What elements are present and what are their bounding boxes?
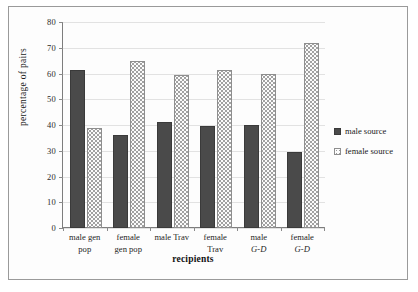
x-tick-mark (237, 227, 238, 231)
bar-male-source (287, 152, 302, 228)
y-tick-label: 60 (47, 69, 56, 79)
bar-male-source (70, 70, 85, 228)
x-tick-label: male genpop (63, 232, 107, 255)
y-tick-mark (59, 151, 63, 152)
bar-group (108, 22, 152, 228)
y-tick-mark (59, 74, 63, 75)
bar-male-source (113, 135, 128, 228)
y-tick-mark (59, 202, 63, 203)
x-tick-mark (107, 227, 108, 231)
bar-female-source (261, 74, 276, 229)
y-tick-mark (59, 48, 63, 49)
bar-male-source (157, 122, 172, 228)
bar-group (64, 22, 108, 228)
bar-female-source (304, 43, 319, 228)
y-tick-label: 0 (52, 223, 56, 233)
y-tick-mark (59, 125, 63, 126)
bar-male-source (200, 126, 215, 228)
x-tick-label: femaleTrav (194, 232, 238, 255)
y-tick-label: 80 (47, 17, 56, 27)
x-tick-labels: male genpopfemalegen popmale TravfemaleT… (63, 232, 324, 255)
bar-female-source (217, 70, 232, 228)
legend-item-male-source: male source (334, 126, 410, 136)
legend-label: female source (345, 146, 393, 156)
bar-group (238, 22, 282, 228)
x-tick-mark (324, 227, 325, 231)
y-tick-label: 70 (47, 43, 56, 53)
y-tick-label: 50 (47, 94, 56, 104)
bar-group (195, 22, 239, 228)
dotted-square-icon (334, 148, 341, 155)
bar-groups (64, 22, 325, 228)
bar-group (282, 22, 326, 228)
y-tick-label: 40 (47, 120, 56, 130)
x-tick-label: male Trav (150, 232, 194, 255)
plot-wrapper: 01020304050607080 male genpopfemalegen p… (62, 22, 324, 230)
bar-female-source (87, 128, 102, 228)
x-axis-title: recipients (62, 254, 324, 264)
y-axis-title: percentage of pairs (18, 48, 28, 126)
bar-female-source (130, 61, 145, 228)
legend-label: male source (345, 126, 386, 136)
x-tick-mark (150, 227, 151, 231)
x-tick-mark (281, 227, 282, 231)
y-tick-label: 10 (47, 197, 56, 207)
y-tick-label: 20 (47, 172, 56, 182)
chart-figure: percentage of pairs 01020304050607080 ma… (0, 0, 418, 292)
y-tick-mark (59, 99, 63, 100)
x-tick-label: femaleG-D (281, 232, 325, 255)
bar-female-source (174, 75, 189, 228)
y-tick-label: 30 (47, 146, 56, 156)
chart-legend: male source female source (334, 126, 410, 166)
y-tick-mark (59, 177, 63, 178)
x-tick-mark (194, 227, 195, 231)
filled-square-icon (334, 128, 341, 135)
x-tick-label: femalegen pop (107, 232, 151, 255)
bar-male-source (244, 125, 259, 228)
legend-item-female-source: female source (334, 146, 410, 156)
x-tick-label: male G-D (237, 232, 281, 255)
plot-area: 01020304050607080 (62, 22, 324, 228)
bar-group (151, 22, 195, 228)
y-tick-mark (59, 22, 63, 23)
x-tick-mark (63, 227, 64, 231)
